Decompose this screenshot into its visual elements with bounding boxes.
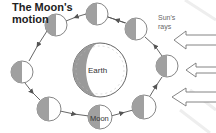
earth-label: Earth (88, 66, 107, 75)
sun-rays-label: Sun's rays (158, 13, 175, 31)
sun-ray-arrow-2 (186, 63, 216, 77)
moon-top-right (125, 18, 147, 40)
moon-right (156, 55, 178, 77)
moon-bottom-left (37, 97, 61, 121)
sun-rays (172, 31, 216, 106)
moon-left (11, 61, 33, 83)
background-streaks (180, 0, 216, 133)
moon-top (86, 3, 108, 25)
title-line-1: The Moon's (12, 1, 73, 13)
title-line-2: motion (12, 13, 73, 25)
sun-ray-arrow-1 (174, 31, 216, 49)
sun-label-line-2: rays (158, 22, 175, 31)
moon-bottom-right (132, 95, 156, 119)
moon-label: Moon (90, 114, 109, 123)
sun-label-line-1: Sun's (158, 13, 175, 22)
diagram-title: The Moon's motion (12, 1, 73, 25)
